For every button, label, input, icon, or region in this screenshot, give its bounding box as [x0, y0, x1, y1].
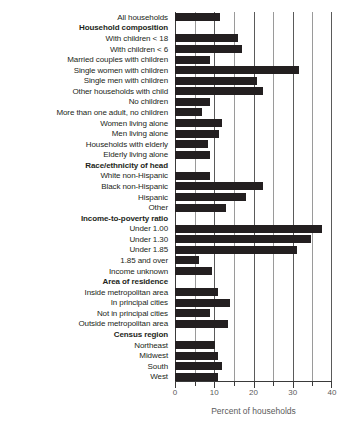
bar-row	[175, 56, 332, 64]
x-tick-minor	[273, 382, 274, 386]
category-group-header: Area of residence	[103, 277, 168, 286]
category-label: Under 1.00	[129, 224, 168, 233]
category-label: Single men with children	[84, 76, 168, 85]
bar	[175, 362, 222, 370]
bar	[175, 246, 297, 254]
category-label: Under 1.30	[129, 235, 168, 244]
bar	[175, 193, 246, 201]
bar-row	[175, 362, 332, 370]
bar-row	[175, 45, 332, 53]
x-tick-label: 20	[249, 388, 258, 398]
bar-row	[175, 140, 332, 148]
bar-row	[175, 246, 332, 254]
bar-row	[175, 119, 332, 127]
bar-row	[175, 341, 332, 349]
category-label: White non-Hispanic	[100, 171, 168, 180]
category-label: With children < 6	[110, 45, 168, 54]
bar	[175, 299, 230, 307]
bar-row	[175, 87, 332, 95]
bar-row	[175, 235, 332, 243]
bar-row	[175, 98, 332, 106]
x-tick-minor	[312, 382, 313, 386]
bar	[175, 172, 210, 180]
bar	[175, 34, 238, 42]
category-label: West	[150, 372, 168, 381]
bar-row	[175, 352, 332, 360]
bar-row	[175, 108, 332, 116]
bar-row	[175, 267, 332, 275]
bar	[175, 151, 210, 159]
category-group-header: Household composition	[79, 23, 168, 32]
bar-row	[175, 299, 332, 307]
category-label: Outside metropolitan area	[78, 319, 168, 328]
bar-row	[175, 130, 332, 138]
category-label: Men living alone	[112, 129, 168, 138]
category-label: Income unknown	[109, 267, 168, 276]
category-label: More than one adult, no children	[56, 108, 168, 117]
category-label: Under 1.85	[129, 245, 168, 254]
category-group-header: Income-to-poverty ratio	[81, 214, 168, 223]
category-label: In principal cities	[111, 298, 168, 307]
category-label: With children < 18	[106, 34, 168, 43]
category-label: All households	[117, 13, 168, 22]
bar	[175, 373, 218, 381]
category-label: 1.85 and over	[120, 256, 168, 265]
bar	[175, 66, 299, 74]
bar-row	[175, 13, 332, 21]
bar-row	[175, 66, 332, 74]
category-label: Northeast	[134, 341, 168, 350]
bar	[175, 182, 263, 190]
bar	[175, 341, 215, 349]
bar-row	[175, 256, 332, 264]
category-group-header: Census region	[114, 330, 168, 339]
x-tick-label: 40	[328, 388, 337, 398]
bar	[175, 130, 219, 138]
bar	[175, 256, 199, 264]
category-label: Elderly living alone	[103, 150, 168, 159]
bar-row	[175, 172, 332, 180]
bar-chart: All householdsHousehold compositionWith …	[0, 0, 349, 432]
bar-row	[175, 320, 332, 328]
x-axis-title: Percent of households	[175, 406, 332, 416]
bar	[175, 98, 210, 106]
category-label: Black non-Hispanic	[101, 182, 168, 191]
bar	[175, 45, 242, 53]
category-label: Midwest	[139, 351, 168, 360]
bar-row	[175, 193, 332, 201]
plot-area	[175, 12, 332, 382]
x-tick-label: 30	[288, 388, 297, 398]
bar-row	[175, 373, 332, 381]
x-axis-tick-labels: 010203040	[0, 388, 349, 400]
bar-row	[175, 77, 332, 85]
category-label: No children	[129, 97, 168, 106]
bar-row	[175, 288, 332, 296]
bar	[175, 225, 322, 233]
category-label: Women living alone	[100, 119, 168, 128]
category-label: South	[148, 362, 168, 371]
category-label: Hispanic	[138, 193, 168, 202]
bar-row	[175, 151, 332, 159]
bar	[175, 108, 202, 116]
x-tick-minor	[195, 382, 196, 386]
category-label: Not in principal cities	[97, 309, 168, 318]
bar	[175, 309, 210, 317]
bar	[175, 288, 218, 296]
bar-series	[175, 12, 332, 382]
bar-row	[175, 225, 332, 233]
bar	[175, 267, 212, 275]
bar	[175, 352, 218, 360]
category-group-header: Race/ethnicity of head	[85, 161, 168, 170]
bar-row	[175, 34, 332, 42]
bar-row	[175, 182, 332, 190]
bar	[175, 56, 210, 64]
category-labels: All householdsHousehold compositionWith …	[0, 12, 172, 382]
category-label: Married couples with children	[67, 55, 168, 64]
category-label: Households with elderly	[86, 140, 168, 149]
x-tick-minor	[234, 382, 235, 386]
bar	[175, 119, 222, 127]
bar	[175, 77, 257, 85]
bar	[175, 87, 263, 95]
bar	[175, 320, 228, 328]
x-tick-label: 10	[210, 388, 219, 398]
bar-row	[175, 204, 332, 212]
